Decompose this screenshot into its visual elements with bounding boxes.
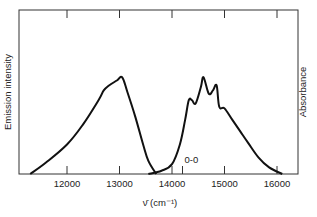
y-axis-right-label: Absorbance [297, 67, 308, 118]
y-axis-left-label: Emission intensity [2, 54, 13, 130]
absorbance-curve [148, 77, 282, 174]
x-tick-label: 15000 [211, 178, 237, 189]
x-tick-label: 14000 [159, 178, 185, 189]
annotations: 0-0 [183, 154, 199, 174]
spectrum-chart: 1200013000140001500016000 0-0 Emission i… [0, 0, 317, 217]
x-ticks: 1200013000140001500016000 [54, 10, 290, 189]
x-tick-label: 12000 [54, 178, 80, 189]
emission-curve [30, 77, 156, 174]
curves [30, 77, 282, 174]
x-tick-label: 13000 [106, 178, 132, 189]
x-axis-label: ν̄ (cm⁻¹) [143, 197, 178, 208]
zero-zero-label: 0-0 [185, 154, 199, 165]
x-tick-label: 16000 [264, 178, 290, 189]
